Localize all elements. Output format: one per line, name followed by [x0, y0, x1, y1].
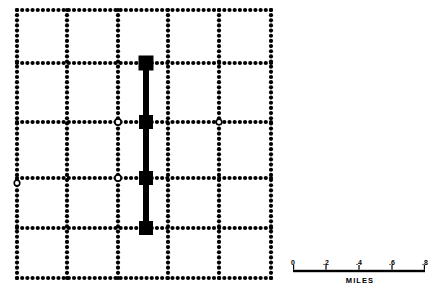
scale-tick-label: .8	[422, 259, 428, 267]
scale-bar-title: MILES	[346, 277, 374, 285]
scale-tick-label: .2	[323, 259, 329, 267]
scale-tick-label: 0	[291, 259, 295, 267]
scale-tick-label: .4	[356, 259, 362, 267]
map-figure: 0.2.4.6.8 MILES	[0, 0, 435, 296]
scale-tick-label: .6	[389, 259, 395, 267]
map-canvas	[0, 0, 435, 296]
